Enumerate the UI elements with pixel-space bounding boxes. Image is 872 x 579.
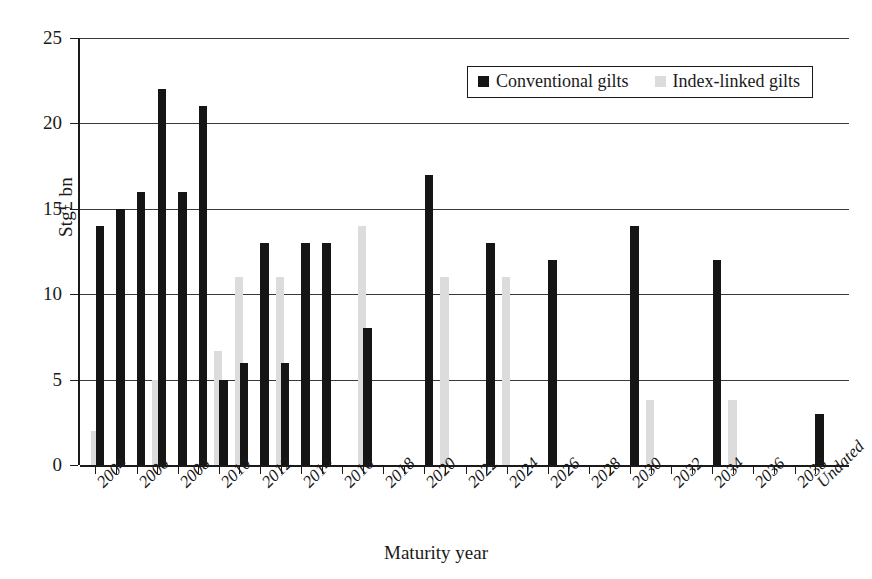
- y-axis-tick-label: 10: [16, 284, 62, 303]
- bar: [137, 192, 146, 465]
- legend: Conventional giltsIndex-linked gilts: [467, 66, 813, 98]
- bar: [178, 192, 187, 465]
- bar: [322, 243, 331, 465]
- y-axis-tick-label: 20: [16, 113, 62, 132]
- gridline: [80, 380, 849, 381]
- legend-item: Conventional gilts: [478, 71, 629, 92]
- y-axis-tick-mark: [70, 38, 78, 39]
- bar: [116, 209, 125, 465]
- legend-label: Index-linked gilts: [673, 71, 800, 92]
- bar: [425, 175, 434, 465]
- legend-swatch-icon: [478, 76, 489, 87]
- gridline: [80, 294, 849, 295]
- y-axis-tick-label: 15: [16, 199, 62, 218]
- gridline: [80, 38, 849, 39]
- bar: [363, 328, 372, 465]
- y-axis-tick-label: 0: [16, 455, 62, 474]
- bar: [158, 89, 167, 465]
- y-axis-tick-label: 25: [16, 28, 62, 47]
- gridline: [80, 209, 849, 210]
- bar: [301, 243, 310, 465]
- gridline: [80, 123, 849, 124]
- bar: [440, 277, 449, 465]
- y-axis-tick-mark: [70, 123, 78, 124]
- legend-swatch-icon: [655, 76, 666, 87]
- y-axis-tick-mark: [70, 294, 78, 295]
- bar: [240, 363, 249, 465]
- bar: [219, 380, 228, 465]
- y-axis-tick-mark: [70, 465, 78, 466]
- x-axis-title: Maturity year: [0, 542, 872, 564]
- bar: [486, 243, 495, 465]
- bar: [548, 260, 557, 465]
- bar: [199, 106, 208, 465]
- x-axis-tick-labels: 2004200620082010201220142016201820202022…: [78, 466, 847, 546]
- y-axis-tick-mark: [70, 209, 78, 210]
- legend-item: Index-linked gilts: [655, 71, 800, 92]
- bar: [260, 243, 269, 465]
- bar: [281, 363, 290, 465]
- y-axis-tick-label: 5: [16, 370, 62, 389]
- bar: [630, 226, 639, 465]
- legend-label: Conventional gilts: [496, 71, 629, 92]
- y-axis-tick-mark: [70, 380, 78, 381]
- plot-area: [78, 38, 849, 465]
- bar: [502, 277, 511, 465]
- bar: [713, 260, 722, 465]
- gilt-maturity-bar-chart: Stg£ bn 0510152025 200420062008201020122…: [0, 0, 872, 579]
- bar: [96, 226, 105, 465]
